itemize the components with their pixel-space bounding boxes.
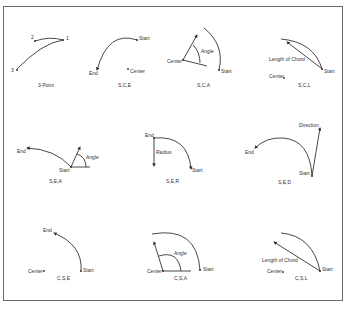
end-label: End <box>245 149 254 155</box>
panel-csa: Angle Center Start C,S,A <box>147 233 214 281</box>
caption-scl: S,C,L <box>298 82 311 88</box>
panel-sea: Angle End Start S,E,A <box>17 147 99 184</box>
arc-methods-diagram: 1 2 3 3-Point Start Center End S,C,E Ang… <box>0 0 348 311</box>
panel-sed: Direction End Start S,E,D <box>245 122 320 185</box>
center-label: Center <box>147 268 162 274</box>
panel-sce: Start Center End S,C,E <box>89 35 150 88</box>
caption-csa: C,S,A <box>174 275 188 281</box>
chord-label: Length of Chord <box>262 257 298 263</box>
start-label: Start <box>203 266 214 272</box>
panel-cse: End Center Start C,S,E <box>28 227 94 281</box>
caption-csl: C,S,L <box>295 275 308 281</box>
panel-3-point: 1 2 3 3-Point <box>11 34 69 88</box>
caption-cse: C,S,E <box>57 275 71 281</box>
caption-sea: S,E,A <box>49 178 62 184</box>
radius-label: Radius <box>156 149 172 155</box>
start-label: Start <box>221 68 232 74</box>
direction-label: Direction <box>299 122 319 128</box>
angle-label: Angle <box>174 250 187 256</box>
panel-ser: End Radius Start S,E,R <box>145 132 203 184</box>
panel-csl: Length of Chord Start Center C,S,L <box>262 233 333 281</box>
start-label: Start <box>192 167 203 173</box>
chord-label: Length of Chord <box>269 56 305 62</box>
point-1-label: 1 <box>66 35 69 41</box>
center-label: Center <box>130 68 145 74</box>
end-label: End <box>145 132 154 138</box>
caption-sce: S,C,E <box>118 82 132 88</box>
end-label: End <box>89 70 98 76</box>
start-label: Start <box>322 266 333 272</box>
start-label: Start <box>83 267 94 273</box>
end-label: End <box>43 227 52 233</box>
point-3-label: 3 <box>11 67 14 73</box>
end-label: End <box>17 148 26 154</box>
caption-sed: S,E,D <box>278 179 291 185</box>
center-label: Center <box>28 268 43 274</box>
start-label: Start <box>299 170 310 176</box>
caption-sca: S,C,A <box>197 82 211 88</box>
start-label: Start <box>324 68 335 74</box>
angle-label: Angle <box>201 48 214 54</box>
center-label: Center <box>269 73 284 79</box>
center-label: Center <box>267 268 282 274</box>
center-label: Center <box>167 58 182 64</box>
start-label: Start <box>59 167 70 173</box>
panel-scl: Length of Chord Start Center S,C,L <box>269 39 335 88</box>
caption-ser: S,E,R <box>166 178 179 184</box>
start-label: Start <box>139 35 150 41</box>
caption-3-point: 3-Point <box>38 82 54 88</box>
panel-sca: Angle Center Start S,C,A <box>167 28 232 88</box>
angle-label: Angle <box>86 154 99 160</box>
point-2-label: 2 <box>31 34 34 40</box>
